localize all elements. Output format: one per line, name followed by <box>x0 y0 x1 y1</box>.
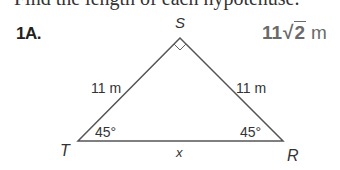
vertex-label-s: S <box>175 14 185 31</box>
angle-label-r: 45° <box>240 124 261 140</box>
triangle-figure: S T R 11 m 11 m x 45° 45° <box>0 0 340 170</box>
vertex-label-t: T <box>60 142 71 159</box>
side-label-ts: 11 m <box>91 80 121 96</box>
side-label-tr: x <box>175 145 183 160</box>
right-angle-marker <box>174 44 186 50</box>
side-label-sr: 11 m <box>236 80 266 96</box>
angle-label-t: 45° <box>95 124 116 140</box>
vertex-label-r: R <box>287 147 299 164</box>
